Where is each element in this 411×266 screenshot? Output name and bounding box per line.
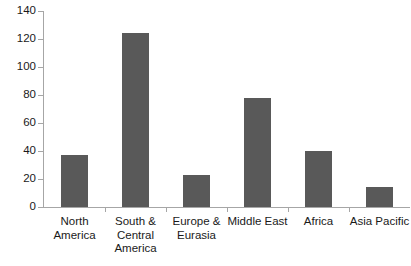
y-axis-tick-label: 20 bbox=[2, 173, 36, 185]
x-axis-tick-mark bbox=[349, 208, 350, 212]
y-axis-tick-mark bbox=[38, 95, 43, 96]
y-axis-tick-label: 0 bbox=[2, 201, 36, 213]
plot-area bbox=[44, 11, 410, 207]
bar bbox=[244, 98, 271, 207]
y-axis-tick-label: 60 bbox=[2, 117, 36, 129]
x-axis-category-label: Europe & Eurasia bbox=[166, 215, 227, 242]
bar bbox=[61, 155, 88, 207]
y-axis-tick-mark bbox=[38, 39, 43, 40]
y-axis-tick-mark bbox=[38, 67, 43, 68]
bar-chart: 020406080100120140 North AmericaSouth & … bbox=[0, 0, 411, 266]
y-axis-tick-label: 40 bbox=[2, 145, 36, 157]
x-axis-category-label: Asia Pacific bbox=[349, 215, 410, 229]
y-axis-tick-label: 80 bbox=[2, 89, 36, 101]
x-axis-category-label: South & Central America bbox=[105, 215, 166, 256]
x-axis-category-label: North America bbox=[44, 215, 105, 242]
y-axis-tick-mark bbox=[38, 123, 43, 124]
x-axis-category-label: Africa bbox=[288, 215, 349, 229]
x-axis-tick-mark bbox=[288, 208, 289, 212]
x-axis-tick-mark bbox=[166, 208, 167, 212]
x-axis-tick-mark bbox=[227, 208, 228, 212]
y-axis-tick-mark bbox=[38, 179, 43, 180]
y-axis-tick-mark bbox=[38, 151, 43, 152]
x-axis-labels: North AmericaSouth & Central AmericaEuro… bbox=[44, 215, 410, 266]
bar bbox=[183, 175, 210, 207]
y-axis-tick-label: 100 bbox=[2, 61, 36, 73]
y-axis-tick-label: 140 bbox=[2, 5, 36, 17]
x-axis-tick-mark bbox=[105, 208, 106, 212]
y-axis-tick-label: 120 bbox=[2, 33, 36, 45]
bar bbox=[122, 33, 149, 207]
bar bbox=[305, 151, 332, 207]
bar bbox=[366, 187, 393, 207]
x-axis-category-label: Middle East bbox=[227, 215, 288, 229]
y-axis-labels: 020406080100120140 bbox=[0, 0, 36, 266]
y-axis-tick-mark bbox=[38, 11, 43, 12]
